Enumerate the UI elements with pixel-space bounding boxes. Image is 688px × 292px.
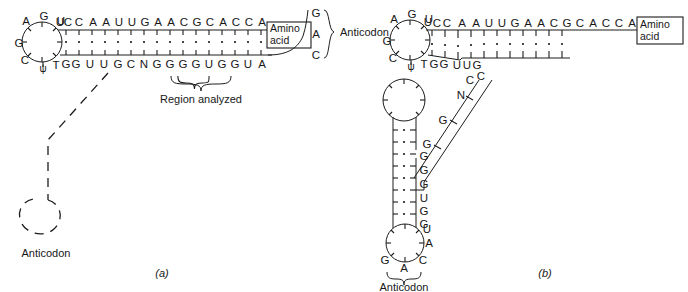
base-top-a-2: C [75,16,83,28]
amino-acid-line2-b: acid [640,30,659,42]
amino-acid-line1-a: Amino [270,22,300,34]
base-top-b-0: U [424,16,432,28]
base-bot-a-6: C [127,58,135,70]
ac-loop-base-b-0: U [423,223,431,235]
base-bot-a-15: U [244,58,252,70]
base-top-b-8: A [524,17,532,29]
base-top-a-5: U [115,16,123,28]
base-top-a-15: C [245,16,253,28]
base-bot-b-4: U [463,59,471,71]
base-top-b-11: G [563,17,572,29]
base-top-a-9: A [167,16,175,28]
base-bot-a-3: U [86,58,94,70]
base-bot-a-14: G [231,58,240,70]
base-top-b-4: A [472,17,480,29]
ac-loop-base-b-1: A [425,237,433,249]
base-bot-a-13: G [218,58,227,70]
end-base-a-2: C [312,49,320,61]
base-top-a-11: G [193,16,202,28]
base-top-a-1: C [64,16,72,28]
ac-stem-base-b-1: G [420,164,429,176]
panel-a: A G U G C ψ [15,7,389,279]
base-bot-a-9: G [166,58,175,70]
base-top-a-6: U [128,16,136,28]
amino-acid-line1-b: Amino [640,18,670,30]
base-bot-a-2: G [72,58,81,70]
loop-base-b-1: G [408,8,417,20]
ac-loop-base-b-3: A [400,262,408,274]
base-top-b-3: A [458,17,466,29]
hbond-dots-a [65,41,262,43]
base-top-b-10: C [550,17,558,29]
base-top-a-8: A [154,16,162,28]
end-base-a-1: A [312,28,320,40]
acceptor-top-bases-b: U C C A A U U G A A C G C A C C A [424,16,636,29]
end-base-a-0: G [312,7,321,19]
anticodon-brace-a [324,10,334,58]
base-bot-a-5: G [114,58,123,70]
base-bot-a-12: U [205,58,213,70]
base-bot-a-1: G [62,58,71,70]
hbond-dots-b [431,43,563,47]
panel-label-b: (b) [538,267,552,279]
loop-base-a-4: C [21,54,29,66]
ac-loop-base-b-2: C [419,254,427,266]
base-ticks-a [66,30,261,55]
base-top-b-15: C [615,17,623,29]
base-top-b-5: U [485,17,493,29]
ac-loop-base-b-4: G [381,254,390,266]
acceptor-bottom-bases-b: T G G U U G C [420,58,485,82]
base-top-a-13: A [219,16,227,28]
diagonal-bases-b: C N G G [423,74,475,150]
base-top-b-16: A [628,17,636,29]
loop-base-a-1: G [40,10,49,22]
base-top-b-7: G [511,17,520,29]
diag-base-b-0: C [466,74,474,86]
base-top-a-14: C [232,16,240,28]
loop-base-b-4: C [389,52,397,64]
ac-stem-base-b-0: G [420,150,429,162]
anticodon-loop-bases-b: U A C A G [381,223,434,274]
base-bot-a-10: G [179,58,188,70]
panel-b: A G U G C ψ [380,8,683,292]
base-top-b-12: C [576,17,584,29]
base-bot-a-16: A [258,58,266,70]
base-top-a-7: G [141,16,150,28]
base-top-b-9: A [537,17,545,29]
base-top-a-3: A [89,16,97,28]
base-bot-b-0: T [420,58,427,70]
anticodon-label-lower-a: Anticodon [22,247,71,259]
diag-base-b-2: G [439,114,448,126]
diagonal-strand-outer-b [414,80,479,178]
figure-canvas: A G U G C ψ [0,0,688,292]
panel-label-a: (a) [155,267,169,279]
base-top-a-12: C [206,16,214,28]
acceptor-bottom-bases-a: T G G U U G C N G G G G U G G U A [52,58,266,71]
base-bot-a-4: U [100,58,108,70]
base-bot-a-8: G [153,58,162,70]
loop-base-a-0: A [22,15,30,27]
trna-structure-figure: A G U G C ψ [0,0,688,292]
base-top-a-16: A [258,16,266,28]
amino-acid-line2-a: acid [270,34,289,46]
region-analyzed-label-a: Region analyzed [160,93,242,105]
loop-base-b-0: A [390,13,398,25]
region-brace-a [178,76,209,89]
acceptor-top-bases-a: U C C A A U U G A A C G C A C C A [56,16,266,28]
diag-base-b-1: N [457,89,465,101]
base-bot-a-0: T [52,59,59,71]
base-top-a-4: A [102,16,110,28]
base-bot-b-1: G [430,58,439,70]
ac-stem-base-b-4: G [420,205,429,217]
loop-base-b-3: G [383,35,392,47]
base-bot-b-6: C [477,70,485,82]
base-bot-b-2: G [440,58,449,70]
base-top-b-1: C [433,17,441,29]
base-top-a-10: C [180,16,188,28]
loop-base-a-3: G [15,37,24,49]
anticodon-label-b: Anticodon [380,281,429,292]
stem-hbonds-b [403,129,405,215]
diag-base-b-3: G [423,138,432,150]
base-bot-a-7: N [140,58,148,70]
base-top-b-6: U [498,17,506,29]
